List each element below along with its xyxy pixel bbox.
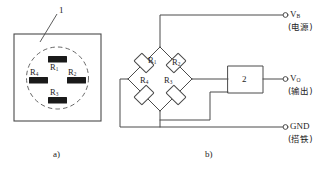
terminal-vb-sub: B [297,13,301,19]
supply-rail-wire [160,15,283,47]
sensor-gauge-r3-sub: 3 [56,91,59,97]
terminal-note-vb: (电源) [288,23,313,32]
sensor-gauge-label-r2: R2 [68,68,76,77]
sensor-gauge-r2-sub: 2 [74,71,77,77]
terminal-node-vo [283,77,288,82]
terminal-vo-sub: O [297,77,301,83]
bridge-r1-sub: 1 [154,59,157,65]
terminal-gnd-base: GND [290,121,310,131]
sensor-gauge-r4-sub: 4 [36,71,39,77]
bridge-resistor-label-r2: R2 [172,58,180,67]
terminal-note-gnd: (搭铁) [288,135,313,144]
strain-gauge-r2 [67,77,86,84]
sensor-gauge-label-r3: R3 [50,88,58,97]
bridge-circuit-diagram-b [120,13,288,130]
bridge-resistor-label-r3: R3 [164,76,172,85]
terminal-label-vo: VO [290,74,301,84]
figure-canvas [0,0,316,173]
sensor-gauge-label-r4: R4 [30,68,38,77]
sensor-body-outline [14,34,101,121]
strain-gauge-r4 [29,77,48,84]
sensor-gauge-label-r1: R1 [50,63,58,72]
terminal-node-vb [283,13,288,18]
terminal-label-gnd: GND [290,122,310,131]
terminal-label-vb: VB [290,10,300,20]
terminal-node-gnd [283,125,288,130]
amplifier-block-label: 2 [242,75,247,84]
bridge-r3-sub: 3 [170,79,173,85]
strain-gauge-r3 [48,97,67,104]
callout-number-1: 1 [59,6,64,15]
sensor-gauge-r1-sub: 1 [56,66,59,72]
bridge-r2-sub: 2 [178,61,181,67]
bridge-resistor-label-r4: R4 [140,76,148,85]
caption-b: b) [205,150,213,159]
caption-a: a) [53,150,60,159]
callout-leader-line [40,14,57,42]
bridge-r4-sub: 4 [146,79,149,85]
terminal-note-vo: (输出) [288,87,313,96]
technical-figure: 1 R1 R2 R3 R4 R1 R2 R3 R4 2 VB (电源) VO (… [0,0,316,173]
bridge-resistor-label-r1: R1 [148,56,156,65]
